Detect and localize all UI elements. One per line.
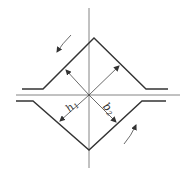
label-h2: b2 <box>100 100 118 118</box>
rotation-arrow-top-left <box>57 35 71 52</box>
dimension-h2-upper <box>89 66 119 95</box>
lower-roll-contour <box>16 101 166 150</box>
diamond-pass-diagram: h1 b2 <box>0 0 192 174</box>
label-h1: h1 <box>63 97 81 115</box>
rotation-arrow-bottom-right <box>124 125 136 144</box>
upper-roll-contour <box>22 38 168 89</box>
dimension-h1-upper <box>66 70 89 95</box>
